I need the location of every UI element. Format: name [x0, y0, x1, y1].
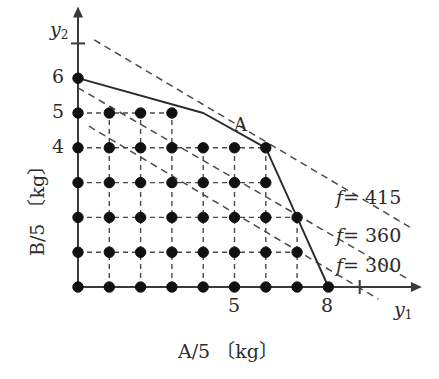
- objective-300-value: = 300: [343, 254, 401, 276]
- y-tick-label-4: 4: [52, 137, 64, 156]
- y-axis-variable-label: y2: [50, 20, 68, 41]
- objective-415-f-symbol: f: [336, 186, 343, 208]
- x-axis-variable-base: y: [394, 298, 405, 320]
- objective-label-415: f= 415: [336, 188, 401, 207]
- y-tick-label-5: 5: [52, 102, 64, 121]
- x-tick-label-5: 5: [228, 296, 240, 315]
- objective-label-360: f= 360: [336, 226, 401, 245]
- y-axis-unit-label: B/5 〔kg〕: [28, 156, 47, 256]
- x-axis-variable-label: y1: [394, 300, 412, 321]
- point-label-A: A: [234, 116, 247, 134]
- x-axis-variable-subscript: 1: [405, 308, 413, 322]
- objective-360-value: = 360: [343, 224, 401, 246]
- linear-programming-figure: y2 y1 6 5 4 5 8 A f= 415 f= 360 f= 300 B…: [0, 0, 439, 379]
- axes-group: [71, 7, 422, 294]
- y-axis-variable-subscript: 2: [61, 28, 69, 42]
- x-tick-label-8: 8: [321, 296, 333, 315]
- y-tick-label-6: 6: [52, 67, 64, 86]
- x-axis-unit-label: A/5 〔kg〕: [178, 342, 278, 361]
- objective-360-f-symbol: f: [336, 224, 343, 246]
- objective-415-value: = 415: [343, 186, 401, 208]
- objective-300-f-symbol: f: [336, 254, 343, 276]
- objective-label-300: f= 300: [336, 256, 401, 275]
- y-axis-variable-base: y: [50, 18, 61, 40]
